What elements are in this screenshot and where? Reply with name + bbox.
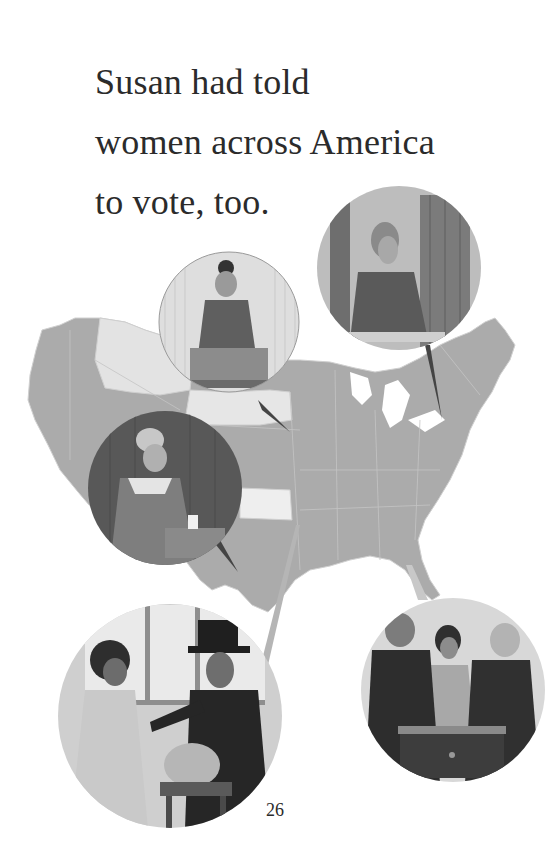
story-text-line-1: Susan had told xyxy=(95,52,515,112)
story-text-line-3: to vote, too. xyxy=(95,172,515,232)
page-number: 26 xyxy=(266,800,284,821)
story-text: Susan had told women across America to v… xyxy=(95,52,515,232)
vignette-woman-and-man-top-hat xyxy=(58,604,283,829)
vignette-woman-between-two-men xyxy=(361,598,546,783)
story-text-line-2: women across America xyxy=(95,112,515,172)
